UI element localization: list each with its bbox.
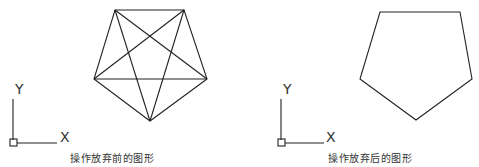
pentagon-with-diagonals-before — [94, 10, 207, 121]
x-axis-label-before: X — [60, 130, 70, 144]
pentagon-after — [360, 12, 472, 120]
y-axis-label-before: Y — [15, 82, 24, 96]
caption-after: 操作放弃后的图形 — [328, 150, 412, 165]
ucs-icon-before — [10, 99, 57, 146]
x-axis-label-after: X — [326, 130, 336, 144]
y-axis-label-after: Y — [283, 82, 292, 96]
caption-before: 操作放弃前的图形 — [70, 150, 154, 165]
ucs-icon-after — [278, 99, 324, 146]
drawing-canvas — [0, 0, 479, 167]
